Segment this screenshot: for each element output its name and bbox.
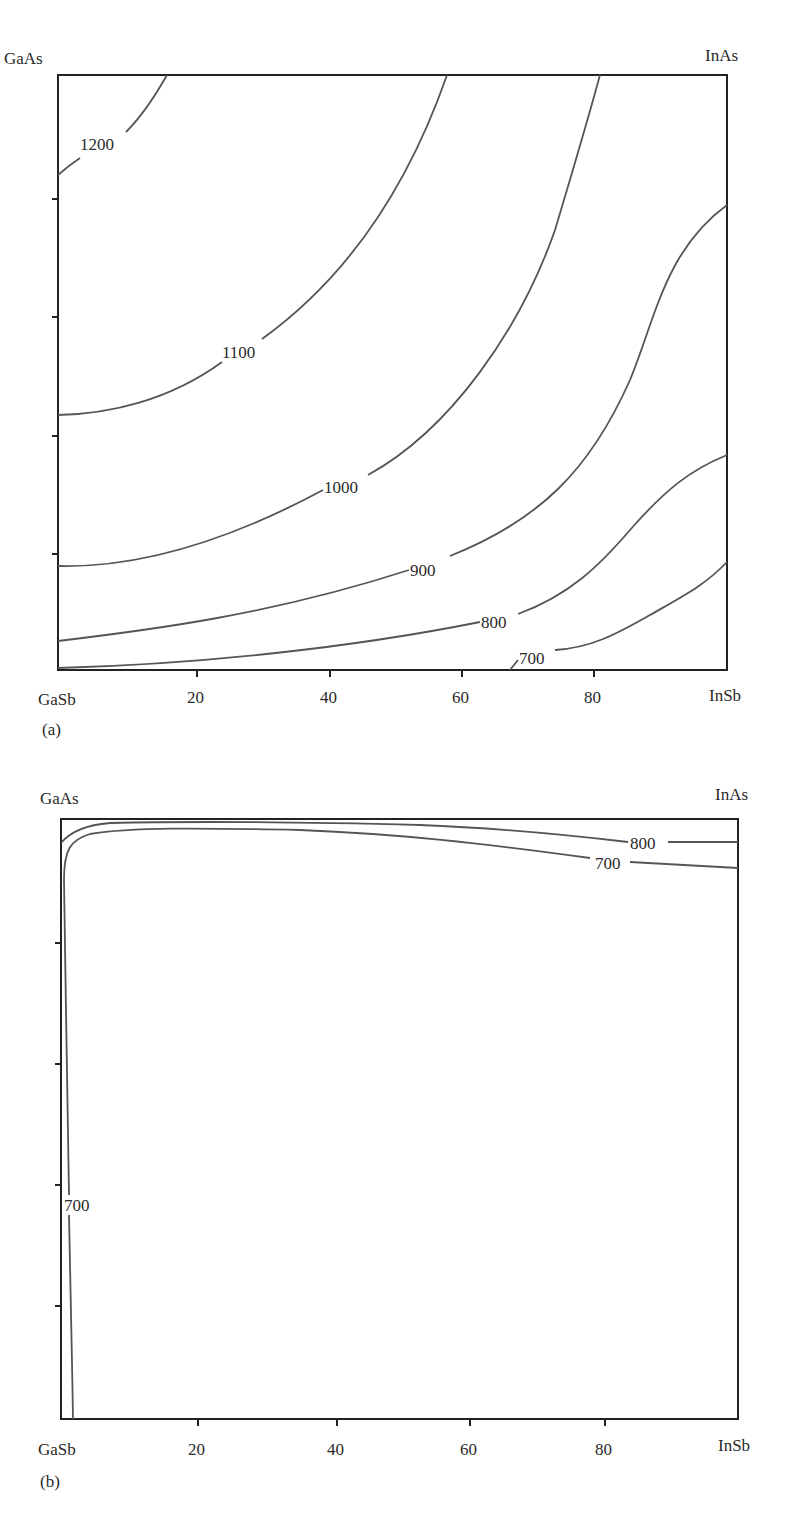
panel-a-frame	[58, 75, 727, 670]
panel-a-corner-gaas: GaAs	[4, 49, 43, 69]
contour-label-1100: 1100	[222, 343, 255, 362]
contour-label-800: 800	[481, 613, 507, 632]
panel-a-corner-gasb: GaSb	[38, 690, 76, 710]
contour-label-700: 700	[519, 649, 545, 668]
panel-b-x-tick-label-80: 80	[595, 1440, 612, 1460]
panel-b-frame	[61, 819, 738, 1419]
contour-label-b-700-left: 700	[64, 1196, 90, 1215]
panel-a-x-tick-label-60: 60	[452, 688, 469, 708]
figure-canvas: 1200 1100 1000 900 800 700 800	[0, 0, 795, 1537]
panel-b-x-tick-label-20: 20	[188, 1440, 205, 1460]
contour-900	[58, 205, 727, 641]
panel-a-x-tick-label-20: 20	[187, 688, 204, 708]
panel-b-corner-insb: InSb	[718, 1436, 750, 1456]
contour-label-b-800: 800	[630, 834, 656, 853]
contour-label-1000: 1000	[324, 478, 358, 497]
panel-b-corner-gasb: GaSb	[38, 1440, 76, 1460]
panel-b-plot: 800 700 700	[55, 819, 738, 1426]
contour-800	[58, 455, 727, 668]
contour-label-1200: 1200	[80, 135, 114, 154]
panel-a-label: (a)	[42, 720, 61, 740]
panel-b-x-tick-label-40: 40	[327, 1440, 344, 1460]
contour-b-700	[64, 829, 738, 1419]
contour-label-b-700-top: 700	[595, 854, 621, 873]
panel-b-corner-inas: InAs	[715, 785, 748, 805]
panel-b-corner-gaas: GaAs	[40, 789, 79, 809]
panel-b-label: (b)	[40, 1472, 60, 1492]
contour-label-900: 900	[410, 561, 436, 580]
panel-a-corner-insb: InSb	[709, 686, 741, 706]
contour-1100	[58, 75, 447, 415]
panel-a-corner-inas: InAs	[705, 46, 738, 66]
contour-1200	[58, 75, 167, 175]
panel-a-x-tick-label-80: 80	[584, 688, 601, 708]
panel-b-x-tick-label-60: 60	[460, 1440, 477, 1460]
panel-a-x-tick-label-40: 40	[320, 688, 337, 708]
panel-a-plot: 1200 1100 1000 900 800 700	[52, 75, 727, 677]
